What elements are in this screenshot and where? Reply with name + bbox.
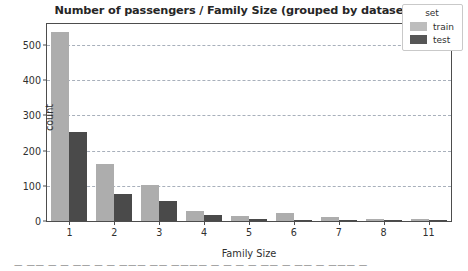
chart-figure: Number of passengers / Family Size (grou…	[0, 0, 468, 271]
bar-train-5	[231, 216, 249, 221]
legend-label-test: test	[433, 35, 450, 45]
cropped-footer-text: — —— — — —— — — ——— —— ———— — — — — —— —…	[14, 264, 368, 270]
bar-test-8	[384, 220, 402, 221]
bar-train-3	[141, 185, 159, 221]
cropped-footer-strip: — —— — — —— — — ——— —— ———— — — — — —— —…	[0, 264, 468, 271]
plot-area: count 01002003004005001234567811	[46, 23, 452, 222]
legend-entries: traintest	[410, 20, 454, 46]
legend-swatch-train	[410, 22, 427, 31]
y-tick-mark-100	[43, 185, 47, 186]
x-tick-label-8: 8	[381, 227, 387, 238]
y-axis-label: count	[44, 83, 55, 153]
x-tick-label-6: 6	[291, 227, 297, 238]
x-tick-mark-7	[339, 221, 340, 225]
y-tick-label-0: 0	[35, 216, 41, 227]
x-tick-mark-6	[294, 221, 295, 225]
x-tick-mark-11	[429, 221, 430, 225]
y-tick-mark-0	[43, 221, 47, 222]
bar-test-5	[249, 219, 267, 221]
x-tick-mark-2	[114, 221, 115, 225]
bar-train-2	[96, 164, 114, 221]
x-tick-mark-5	[249, 221, 250, 225]
y-tick-mark-200	[43, 150, 47, 151]
y-tick-label-100: 100	[23, 180, 41, 191]
y-tick-mark-500	[43, 45, 47, 46]
x-tick-label-3: 3	[156, 227, 162, 238]
legend-label-train: train	[433, 22, 454, 32]
x-tick-label-7: 7	[336, 227, 342, 238]
x-axis-label: Family Size	[46, 248, 452, 259]
x-tick-label-2: 2	[111, 227, 117, 238]
bar-test-6	[294, 220, 312, 221]
x-tick-mark-8	[384, 221, 385, 225]
legend-swatch-test	[410, 35, 427, 44]
bar-train-7	[321, 217, 339, 221]
chart-legend: set traintest	[402, 4, 463, 51]
x-tick-label-5: 5	[246, 227, 252, 238]
bar-train-6	[276, 213, 294, 221]
x-tick-label-4: 4	[201, 227, 207, 238]
x-tick-mark-3	[159, 221, 160, 225]
y-tick-label-300: 300	[23, 110, 41, 121]
x-tick-mark-1	[69, 221, 70, 225]
x-tick-label-11: 11	[422, 227, 434, 238]
y-tick-mark-300	[43, 115, 47, 116]
chart-title: Number of passengers / Family Size (grou…	[0, 4, 468, 17]
y-tick-label-500: 500	[23, 40, 41, 51]
bar-train-8	[366, 219, 384, 221]
bar-test-2	[114, 194, 132, 221]
bar-test-3	[159, 201, 177, 221]
bars-layer	[47, 24, 451, 221]
y-tick-label-200: 200	[23, 145, 41, 156]
bar-train-4	[186, 211, 204, 221]
y-tick-mark-400	[43, 80, 47, 81]
y-tick-label-400: 400	[23, 75, 41, 86]
bar-test-7	[339, 220, 357, 221]
x-tick-label-1: 1	[66, 227, 72, 238]
bar-test-4	[204, 215, 222, 221]
x-tick-mark-4	[204, 221, 205, 225]
legend-item-train[interactable]: train	[410, 20, 454, 33]
bar-test-11	[429, 220, 447, 221]
legend-title: set	[410, 8, 454, 18]
legend-item-test[interactable]: test	[410, 33, 454, 46]
bar-train-11	[411, 219, 429, 221]
bar-test-1	[69, 132, 87, 221]
